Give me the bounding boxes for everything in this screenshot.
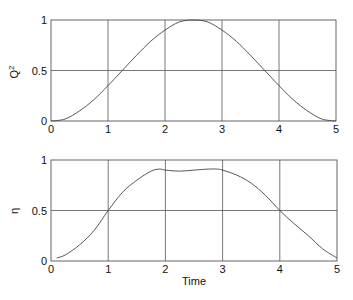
chart-figure: 012345 00.51 Q2 012345 00.51 η Time <box>0 0 353 300</box>
q2-x-tick-label: 2 <box>162 123 168 135</box>
q2-x-ticks: 012345 <box>48 123 339 135</box>
q2-y-ticks: 00.51 <box>32 14 47 127</box>
eta-y-tick-label: 1 <box>41 154 47 166</box>
eta-x-tick-label: 4 <box>277 263 283 275</box>
q2-x-tick-label: 4 <box>276 123 282 135</box>
q2-y-tick-label: 0 <box>41 115 47 127</box>
q2-y-tick-label: 0.5 <box>32 65 47 77</box>
q2-x-tick-label: 0 <box>48 123 54 135</box>
eta-x-tick-label: 0 <box>48 263 54 275</box>
q2-x-tick-label: 5 <box>333 123 339 135</box>
q2-x-tick-label: 3 <box>219 123 225 135</box>
eta-x-tick-label: 5 <box>334 263 340 275</box>
q2-y-axis-label: Q2 <box>7 65 21 79</box>
eta-series-line <box>57 169 337 258</box>
eta-y-tick-label: 0 <box>41 255 47 267</box>
eta-grid <box>51 160 337 261</box>
eta-y-tick-label: 0.5 <box>32 205 47 217</box>
eta-y-axis-label: η <box>8 208 20 214</box>
q2-x-tick-label: 1 <box>105 123 111 135</box>
eta-y-ticks: 00.51 <box>32 154 47 267</box>
time-x-axis-label: Time <box>182 275 206 287</box>
eta-plot: 012345 00.51 η Time <box>8 154 340 287</box>
eta-x-tick-label: 2 <box>162 263 168 275</box>
eta-x-tick-label: 3 <box>220 263 226 275</box>
eta-x-ticks: 012345 <box>48 263 340 275</box>
eta-x-tick-label: 1 <box>105 263 111 275</box>
q2-plot: 012345 00.51 Q2 <box>7 14 340 135</box>
q2-y-tick-label: 1 <box>41 14 47 26</box>
q2-grid <box>51 20 336 121</box>
